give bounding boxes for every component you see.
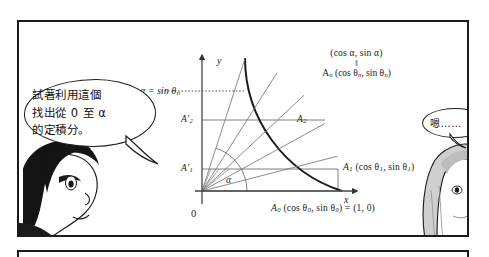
next-panel-edge [17, 250, 469, 257]
point-An-formula: An (cos θn, sin θn) [322, 68, 391, 78]
label-A2: A2 [297, 114, 307, 124]
point-An-annotation: (cos α, sin α) ‖ An (cos θn, sin θn) [264, 48, 449, 78]
origin-label: 0 [191, 208, 196, 219]
pupil [68, 180, 73, 187]
speech-bubble-left[interactable]: 試著利用這個 找出從 0 至 α 的定積分。 [24, 79, 156, 147]
speech-bubble-right-text: 嗯…… [430, 115, 462, 130]
manga-page: y x 0 α sin α = sin θn A′2 A′1 A2 (cos α… [0, 0, 489, 257]
point-A1-annotation: A1 (cos θ1, sin θ1) [343, 162, 414, 172]
speech-tail-left [124, 134, 164, 168]
point-A0-annotation: A0 (cos θ0, sin θ0) = (1, 0) [271, 203, 375, 213]
pupil-right [455, 187, 459, 193]
y-axis-label: y [217, 55, 221, 66]
angle-alpha-label: α [226, 174, 231, 185]
speech-bubble-right[interactable]: 嗯…… [422, 108, 469, 138]
angle-alpha-arc [216, 148, 247, 191]
speech-bubble-left-text: 試著利用這個 找出從 0 至 α 的定積分。 [32, 87, 144, 140]
radius-A1 [202, 156, 338, 191]
speech-line-2: 找出從 0 至 α [32, 105, 144, 123]
manga-panel: y x 0 α sin α = sin θn A′2 A′1 A2 (cos α… [17, 20, 469, 237]
speech-line-1: 試著利用這個 [32, 87, 144, 105]
speech-tail-right [448, 132, 469, 150]
label-A2-prime: A′2 [181, 114, 193, 124]
label-A1-prime: A′1 [181, 163, 193, 173]
